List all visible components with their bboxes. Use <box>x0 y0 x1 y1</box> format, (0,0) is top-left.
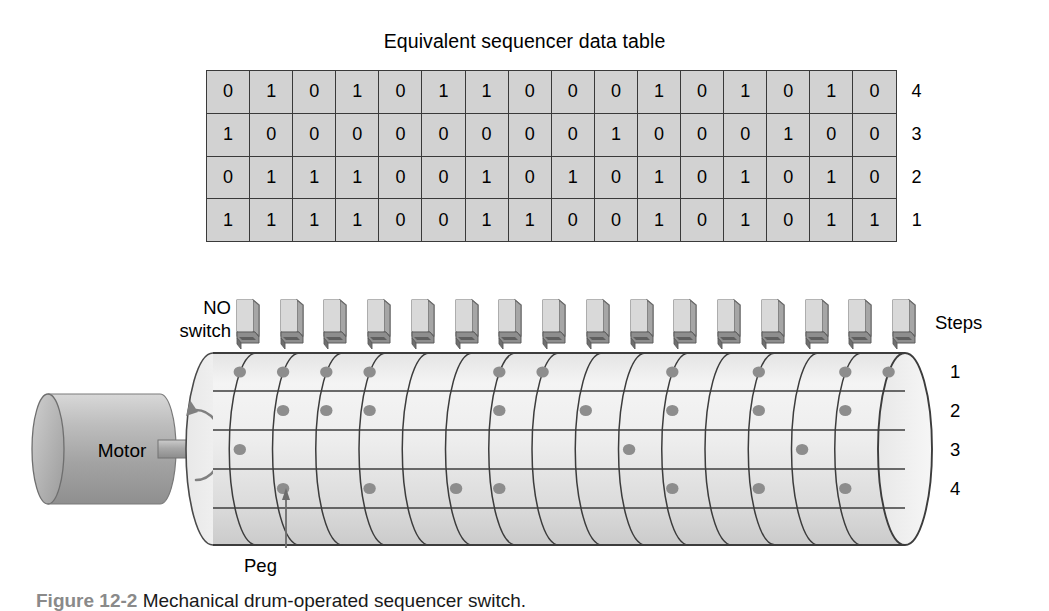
no-switch-label-line1: NO <box>147 296 231 319</box>
table-cell: 0 <box>681 156 724 199</box>
limit-switch-icon <box>231 296 265 352</box>
table-cell: 1 <box>637 199 680 242</box>
limit-switch-icon <box>800 296 834 352</box>
drum-peg <box>666 366 678 377</box>
drum-step-label: 1 <box>950 361 960 382</box>
table-cell: 0 <box>207 71 250 114</box>
sequencer-data-table: 0101011000101010410000000010001003011100… <box>206 70 929 242</box>
table-cell: 1 <box>336 156 379 199</box>
table-cell: 0 <box>508 113 551 156</box>
table-cell: 0 <box>767 199 810 242</box>
drum-peg <box>839 483 851 494</box>
table-cell: 0 <box>853 113 896 156</box>
table-cell: 0 <box>508 71 551 114</box>
table-cell: 0 <box>422 199 465 242</box>
drum-peg <box>796 444 808 455</box>
limit-switch-icon <box>756 296 790 352</box>
table-cell: 0 <box>465 113 508 156</box>
table-cell: 1 <box>293 199 336 242</box>
table-cell: 0 <box>594 71 637 114</box>
table-title: Equivalent sequencer data table <box>0 30 1049 53</box>
table-cell: 1 <box>465 156 508 199</box>
drum-peg <box>277 405 289 416</box>
limit-switch-icon <box>668 296 702 352</box>
table-cell: 1 <box>637 156 680 199</box>
figure-root: Equivalent sequencer data table 01010110… <box>0 0 1049 611</box>
drum-assembly: 1234 Motor <box>0 352 1049 567</box>
table-cell: 1 <box>767 113 810 156</box>
table-cell: 1 <box>637 71 680 114</box>
table-row: 10000000010001003 <box>207 113 929 156</box>
limit-switch-icon <box>362 296 396 352</box>
drum-peg <box>839 366 851 377</box>
table-cell: 1 <box>207 113 250 156</box>
drum-peg <box>363 405 375 416</box>
limit-switch-icon <box>493 296 527 352</box>
limit-switch-icon <box>887 296 921 352</box>
limit-switch-icon <box>712 296 746 352</box>
drum-peg <box>493 366 505 377</box>
table-cell: 0 <box>379 156 422 199</box>
drum-peg <box>277 366 289 377</box>
table-cell: 0 <box>767 156 810 199</box>
table-cell: 0 <box>379 113 422 156</box>
table-cell: 0 <box>207 156 250 199</box>
table-cell: 1 <box>594 113 637 156</box>
table-cell: 0 <box>724 113 767 156</box>
table-cell: 1 <box>724 199 767 242</box>
drum-step-labels: 1234 <box>950 361 960 499</box>
table-cell: 0 <box>422 156 465 199</box>
switch-row <box>226 296 926 352</box>
limit-switch-icon <box>275 296 309 352</box>
table-cell: 0 <box>594 156 637 199</box>
limit-switch-icon <box>450 296 484 352</box>
table-cell: 1 <box>465 199 508 242</box>
table-cell: 1 <box>508 199 551 242</box>
table-cell: 0 <box>767 71 810 114</box>
drum-peg <box>580 405 592 416</box>
drum-peg <box>493 483 505 494</box>
table-cell: 1 <box>250 199 293 242</box>
table-cell: 0 <box>551 199 594 242</box>
drum-peg <box>493 405 505 416</box>
drum-peg <box>839 405 851 416</box>
table-cell: 1 <box>250 156 293 199</box>
table-cell: 0 <box>853 156 896 199</box>
drum-peg <box>882 366 894 377</box>
figure-caption: Figure 12-2 Mechanical drum-operated seq… <box>36 590 526 611</box>
drum-peg <box>320 405 332 416</box>
table-cell: 1 <box>853 199 896 242</box>
no-switch-label-line2: switch <box>147 319 231 342</box>
drum-peg <box>363 366 375 377</box>
table-row-label: 3 <box>896 113 928 156</box>
table-cell: 1 <box>465 71 508 114</box>
no-switch-label: NO switch <box>147 296 231 342</box>
table-cell: 1 <box>551 156 594 199</box>
peg-label: Peg <box>244 555 277 577</box>
drum-step-label: 4 <box>950 478 960 499</box>
table-cell: 0 <box>594 199 637 242</box>
table-cell: 0 <box>853 71 896 114</box>
drum-peg <box>320 366 332 377</box>
table-cell: 0 <box>422 113 465 156</box>
table-body: 0101011000101010410000000010001003011100… <box>207 71 929 242</box>
table-cell: 0 <box>551 113 594 156</box>
motor-label: Motor <box>66 440 178 462</box>
table-cell: 0 <box>336 113 379 156</box>
limit-switch-icon <box>406 296 440 352</box>
table-cell: 1 <box>810 156 853 199</box>
table-cell: 0 <box>379 199 422 242</box>
table-cell: 0 <box>681 199 724 242</box>
steps-label: Steps <box>935 312 982 334</box>
drum-peg <box>536 366 548 377</box>
drum-peg <box>623 444 635 455</box>
drum-step-label: 2 <box>950 400 960 421</box>
table-cell: 1 <box>250 71 293 114</box>
drum-peg <box>753 405 765 416</box>
table-cell: 1 <box>724 156 767 199</box>
table-row: 01110010101010102 <box>207 156 929 199</box>
table-cell: 0 <box>379 71 422 114</box>
table-cell: 0 <box>551 71 594 114</box>
table-row-label: 4 <box>896 71 928 114</box>
table-cell: 1 <box>293 156 336 199</box>
